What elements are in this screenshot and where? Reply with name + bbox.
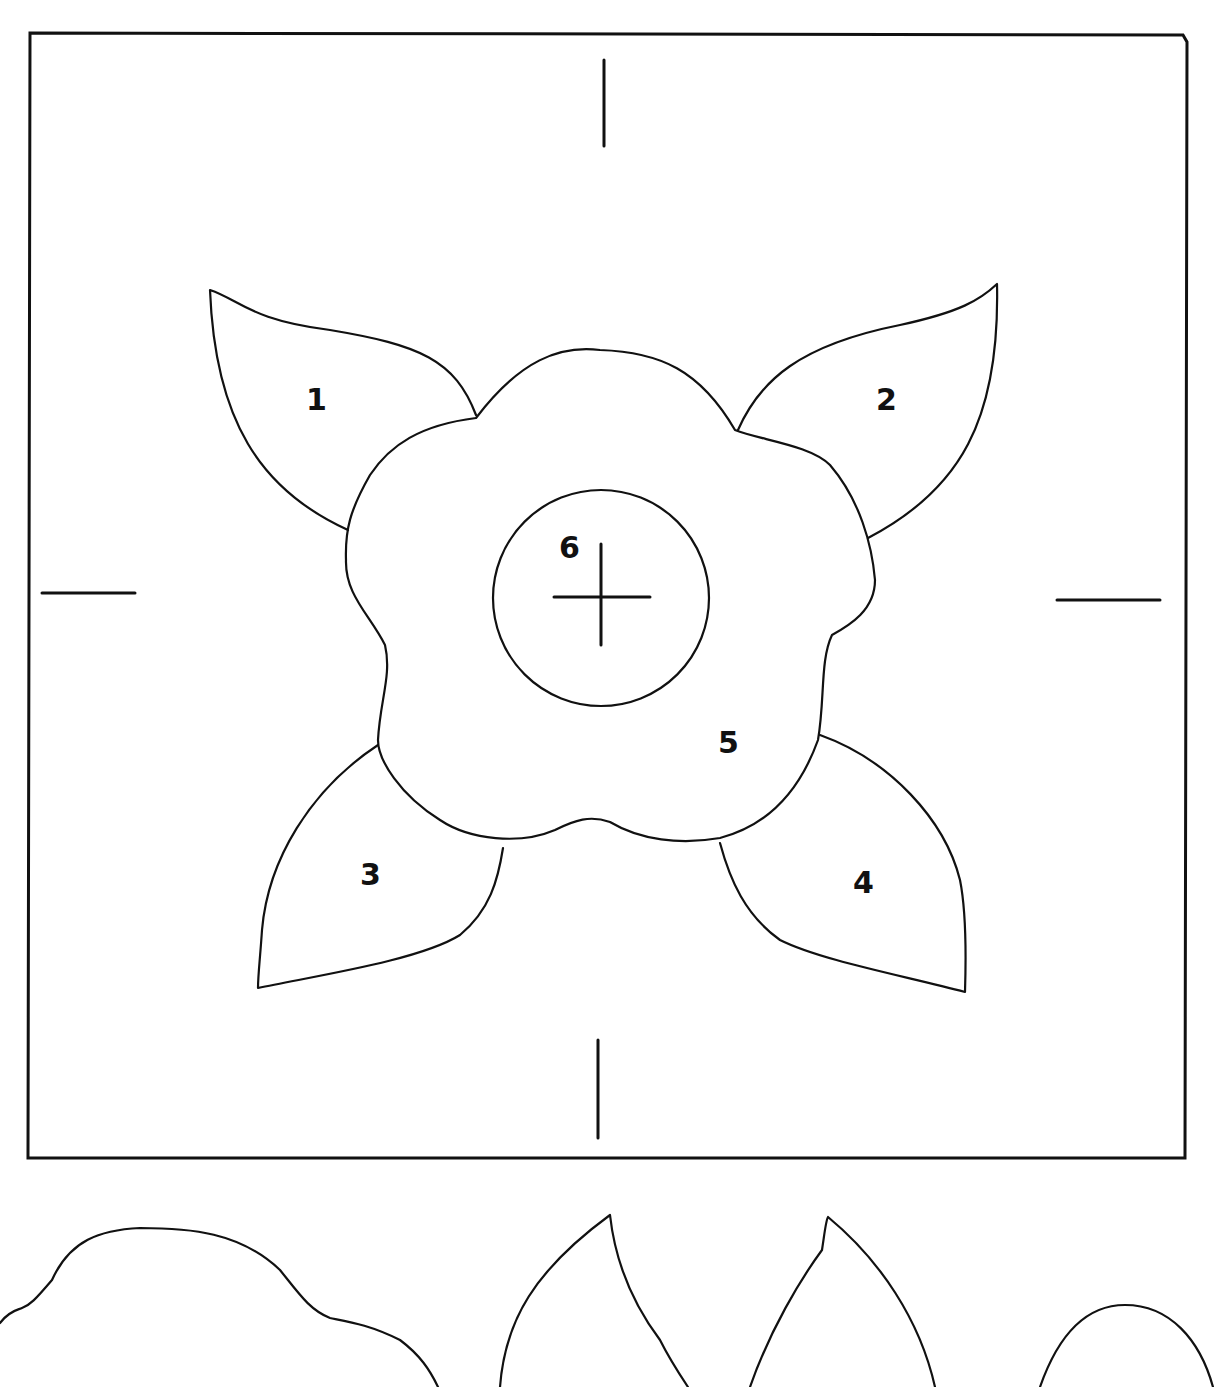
leaf-piece-2 <box>738 284 997 538</box>
piece-label-4: 4 <box>853 865 874 900</box>
leaf-piece-1 <box>210 290 476 530</box>
piece-label-6: 6 <box>559 530 580 565</box>
leaf-template-cutout-left <box>500 1215 688 1387</box>
piece-label-1: 1 <box>306 382 327 417</box>
piece-label-5: 5 <box>718 725 739 760</box>
piece-label-3: 3 <box>360 857 381 892</box>
piece-label-2: 2 <box>876 382 897 417</box>
leaf-template-cutout-right <box>750 1217 935 1387</box>
leaf-piece-4 <box>720 735 965 992</box>
applique-pattern-drawing: 1 2 3 4 5 6 <box>0 0 1227 1387</box>
center-circle-template-cutout <box>1040 1305 1213 1387</box>
flower-piece-5 <box>346 349 875 841</box>
petal-template-cutout <box>0 1228 438 1387</box>
